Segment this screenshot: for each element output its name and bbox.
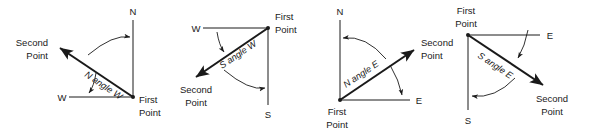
first-point-label-line2: Point (326, 119, 348, 130)
second-point-label-line1: Second (180, 84, 212, 95)
bearing-angle-label: S angle E (476, 50, 515, 81)
bearing-angle-label: S angle W (218, 38, 260, 71)
diagram-ne-quadrant: N E First Point Second Point N angle E (326, 6, 453, 130)
first-point-label-line2: Point (455, 18, 477, 29)
bearing-angle-arc (224, 70, 265, 88)
bearing-ray (60, 48, 133, 97)
second-point-label-line1: Second (536, 93, 568, 104)
west-label: W (192, 23, 201, 34)
origin-vertex-dot (466, 33, 470, 37)
origin-vertex-dot (131, 95, 135, 99)
first-point-label-line1: First (275, 11, 294, 22)
south-label: S (265, 109, 271, 120)
complement-angle-arc (217, 32, 224, 52)
second-point-label-line1: Second (421, 37, 453, 48)
west-label: W (58, 92, 67, 103)
north-label: N (337, 6, 344, 17)
south-label: S (465, 115, 471, 126)
bearing-diagram-sheet: N W First Point Second Point N angle W W… (0, 0, 589, 132)
complement-angle-arc (390, 65, 402, 95)
second-point-label-line2: Point (541, 106, 563, 117)
second-point-label-line2: Point (26, 50, 48, 61)
second-point-label-line2: Point (185, 97, 207, 108)
bearing-angle-arc (472, 78, 515, 96)
complement-angle-arc (518, 30, 528, 58)
second-point-label-line1: Second (16, 37, 48, 48)
east-label: E (547, 30, 553, 41)
bearing-angle-arc (343, 38, 386, 59)
bearing-diagrams-canvas: N W First Point Second Point N angle W W… (0, 0, 589, 132)
origin-vertex-dot (266, 26, 270, 30)
diagram-se-quadrant: E S First Point Second Point S angle E (455, 5, 568, 126)
north-label: N (130, 6, 137, 17)
first-point-label-line2: Point (275, 24, 297, 35)
diagram-nw-quadrant: N W First Point Second Point N angle W (16, 6, 161, 118)
first-point-label-line1: First (457, 5, 476, 16)
first-point-label-line2: Point (139, 107, 161, 118)
east-label: E (416, 95, 422, 106)
first-point-label-line1: First (139, 94, 158, 105)
second-point-label-line2: Point (421, 50, 443, 61)
bearing-angle-arc (88, 37, 130, 55)
first-point-label-line1: First (328, 106, 347, 117)
diagram-sw-quadrant: W S First Point Second Point S angle W (180, 11, 297, 120)
origin-vertex-dot (338, 98, 342, 102)
